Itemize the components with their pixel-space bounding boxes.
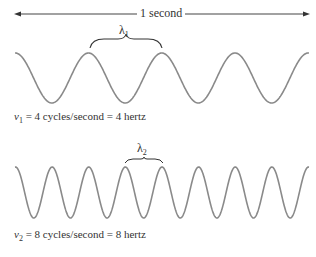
frequency-caption-1: ν1 = 4 cycles/second = 4 hertz [14,110,146,125]
arrow-right-icon [303,12,310,17]
wave-4hz [15,53,309,103]
time-span-label: 1 second [137,6,185,21]
frequency-caption-2: ν2 = 8 cycles/second = 8 hertz [14,228,146,243]
wavelength-label-2: λ2 [137,141,147,157]
arrow-left-icon [14,12,21,17]
wavelength-label-1: λ1 [119,23,129,39]
wavelength-brace-2 [125,157,163,163]
wave-8hz [15,167,309,218]
diagram-canvas [0,0,316,257]
